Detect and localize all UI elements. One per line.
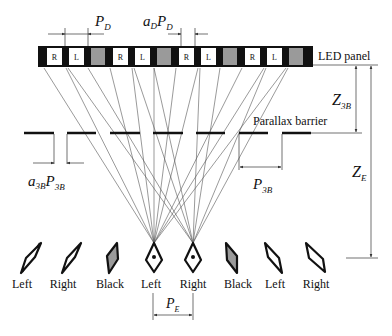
zone-black-2 bbox=[226, 243, 237, 273]
svg-text:R: R bbox=[118, 53, 124, 62]
p3b-dimension bbox=[239, 134, 282, 170]
pe-label: PE bbox=[165, 296, 180, 314]
a3b-p3b-label: a3BP3B bbox=[28, 173, 65, 192]
parallax-barrier-label: Parallax barrier bbox=[253, 114, 327, 128]
zone-left-1 bbox=[21, 243, 41, 273]
zone-right-2 bbox=[306, 243, 325, 272]
svg-text:R: R bbox=[52, 53, 58, 62]
z3b-label: Z3B bbox=[332, 91, 351, 111]
svg-text:Left: Left bbox=[12, 277, 33, 291]
svg-text:Left: Left bbox=[265, 277, 286, 291]
svg-text:L: L bbox=[272, 53, 277, 62]
a3b-p3b-dimension bbox=[33, 134, 84, 164]
parallax-barrier-diagram: R L R L R L R L LED panel PD aDPD bbox=[0, 0, 392, 336]
svg-text:L: L bbox=[140, 53, 145, 62]
pd-dimension bbox=[48, 28, 104, 46]
zone-right-1 bbox=[62, 243, 81, 273]
svg-text:Black: Black bbox=[224, 277, 252, 291]
svg-text:Left: Left bbox=[141, 277, 162, 291]
zone-labels: Left Right Black Left Right Black Left R… bbox=[12, 277, 330, 291]
svg-text:Right: Right bbox=[50, 277, 77, 291]
ze-label: ZE bbox=[352, 163, 367, 183]
svg-text:R: R bbox=[250, 53, 256, 62]
pd-label: PD bbox=[94, 13, 111, 32]
z-dimensions bbox=[311, 65, 378, 258]
zone-black-1 bbox=[107, 243, 118, 273]
svg-text:L: L bbox=[206, 53, 211, 62]
svg-text:Black: Black bbox=[96, 277, 124, 291]
adpd-dimension bbox=[168, 28, 208, 46]
led-panel: R L R L R L R L bbox=[38, 46, 313, 67]
viewing-zones bbox=[21, 243, 325, 273]
zone-left-2 bbox=[265, 243, 282, 273]
light-rays bbox=[44, 68, 288, 243]
svg-text:Right: Right bbox=[303, 277, 330, 291]
svg-text:L: L bbox=[74, 53, 79, 62]
svg-text:Right: Right bbox=[180, 277, 207, 291]
svg-text:R: R bbox=[184, 53, 190, 62]
adpd-label: aDPD bbox=[143, 13, 173, 32]
p3b-label: P3B bbox=[252, 176, 273, 195]
led-panel-label: LED panel bbox=[318, 49, 371, 63]
